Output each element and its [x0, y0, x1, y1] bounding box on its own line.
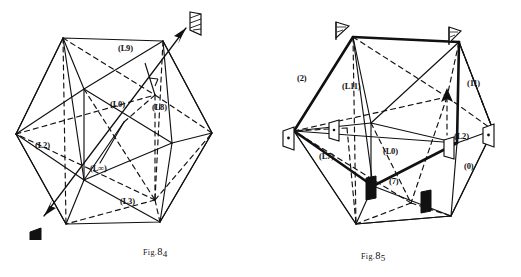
caption-number: 8 — [157, 246, 163, 257]
label-11: (11) — [467, 79, 480, 88]
label-0: (0) — [464, 162, 473, 171]
caption-prefix: Fig. — [361, 252, 375, 261]
label-l0: (L0) — [383, 147, 398, 156]
label-l2: (L2) — [454, 132, 469, 141]
flag-solid-lower-left — [30, 228, 41, 240]
label-7: (7) — [389, 177, 398, 186]
caption-subnumber: 4 — [163, 249, 168, 259]
flag-dot-right — [483, 124, 494, 147]
flag-solid-lower-right — [421, 190, 431, 213]
flag-hatched-upper-right — [190, 12, 201, 35]
emphasised-circuit — [294, 37, 459, 186]
caption-prefix: Fig. — [143, 248, 157, 257]
label-l0: (L0) — [110, 100, 125, 109]
label-l11: (L11) — [342, 82, 360, 91]
caption-subnumber: 5 — [381, 253, 386, 263]
flag-dot-left — [283, 127, 294, 150]
label-l7: (L7) — [319, 152, 334, 161]
figure-84: (L9) (L0) (L8) (L2) (L∞) (L3) Fig.84 — [0, 0, 260, 277]
figure-85-drawing — [261, 0, 521, 240]
figure-84-caption: Fig.84 — [143, 246, 168, 257]
label-l-infinity: (L∞) — [90, 164, 107, 173]
figure-85: (2) (L11) (11) (L2) (L0) (L7) (0) (7) Fi… — [261, 0, 521, 277]
label-l9: (L9) — [118, 44, 133, 53]
flag-hatched-top-left — [336, 22, 349, 40]
label-2: (2) — [297, 74, 306, 83]
figure-plate: (L9) (L0) (L8) (L2) (L∞) (L3) Fig.84 — [0, 0, 521, 277]
flag-open-inner-right — [444, 137, 454, 159]
solid-edges — [16, 38, 212, 224]
flag-dot-inner-left — [329, 120, 339, 141]
label-l3: (L3) — [120, 197, 135, 206]
figure-85-caption: Fig.85 — [361, 250, 386, 261]
label-l8: (L8) — [152, 103, 167, 112]
flag-solid-lower-left — [366, 176, 376, 200]
label-l2: (L2) — [35, 141, 50, 150]
caption-number: 8 — [375, 250, 381, 261]
